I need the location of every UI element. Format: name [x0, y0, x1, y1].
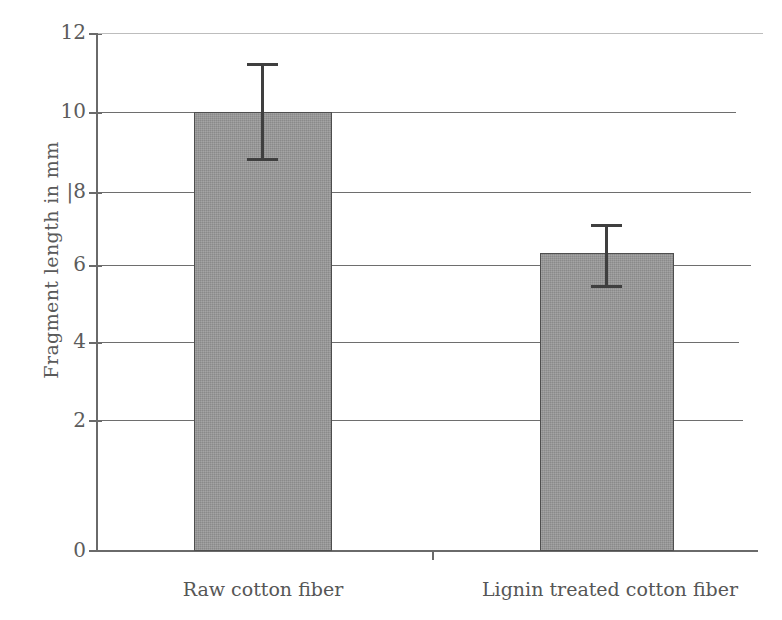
error-bar-stem-lignin-treated-cotton-fiber — [605, 224, 608, 288]
y-tick-label-8: |8 — [40, 181, 86, 201]
error-bar-cap-upper-raw-cotton-fiber — [247, 63, 278, 66]
bar-raw-cotton-fiber — [194, 112, 332, 551]
y-tick-label-4: 4 — [40, 331, 86, 351]
x-axis-category-label-lignin-treated-cotton-fiber: Lignin treated cotton fiber — [482, 578, 732, 600]
gridline-10 — [96, 112, 736, 113]
x-axis-category-separator-tick — [432, 551, 434, 560]
error-bar-cap-upper-lignin-treated-cotton-fiber — [591, 224, 622, 227]
y-tick-label-12: 12 — [40, 22, 86, 42]
y-tick-label-10: 10 — [40, 101, 86, 121]
y-tick-label-6: 6 — [40, 254, 86, 274]
y-axis-line — [96, 33, 98, 552]
gridline-12 — [96, 33, 763, 34]
bar-chart: Fragment length in mm 12 10 |8 6 4 2 0 R… — [0, 0, 782, 620]
error-bar-stem-raw-cotton-fiber — [261, 63, 264, 161]
y-axis-tick-labels: 12 10 |8 6 4 2 0 — [0, 0, 86, 620]
error-bar-cap-lower-lignin-treated-cotton-fiber — [591, 285, 622, 288]
y-tick-label-2: 2 — [40, 410, 86, 430]
y-tick-label-0: 0 — [40, 540, 86, 560]
error-bar-cap-lower-raw-cotton-fiber — [247, 158, 278, 161]
bar-lignin-treated-cotton-fiber — [540, 253, 674, 551]
x-axis-category-label-raw-cotton-fiber: Raw cotton fiber — [148, 578, 378, 600]
